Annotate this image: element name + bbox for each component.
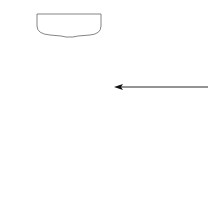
galton-board-diagram — [0, 0, 214, 197]
arrow-left-icon — [114, 84, 208, 90]
hopper — [37, 14, 101, 37]
